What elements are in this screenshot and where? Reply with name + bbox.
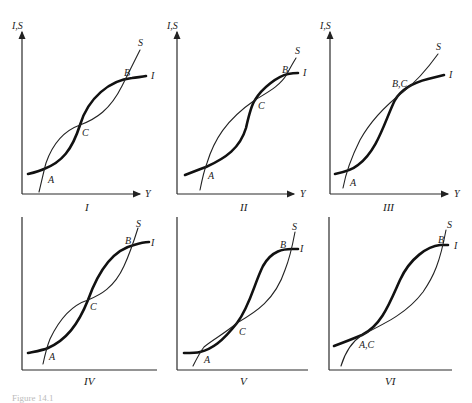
point-B: B (438, 235, 444, 245)
investment-curve-label: I (454, 241, 457, 251)
point-C: C (258, 101, 265, 111)
y-axis-label: I,S (320, 21, 331, 31)
saving-curve-label: S (447, 220, 452, 230)
investment-curve-label: I (151, 238, 154, 248)
investment-curve-label: I (449, 70, 452, 80)
investment-curve-label: I (303, 68, 306, 78)
point-C: C (239, 327, 246, 337)
saving-curve-label: S (295, 46, 300, 56)
investment-curve-label: I (300, 244, 303, 254)
point-B: B (124, 68, 130, 78)
point-A: A (48, 175, 54, 185)
panel-label-III: III (383, 202, 394, 213)
x-axis-label: Y (454, 189, 460, 199)
panel-IV (22, 217, 157, 370)
point-BC: B,C (392, 79, 407, 89)
panel-label-I: I (85, 202, 89, 213)
investment-curve-label: I (151, 71, 154, 81)
y-axis-label: I,S (12, 21, 23, 31)
point-AC: A,C (359, 340, 374, 350)
point-C: C (90, 302, 97, 312)
investment-curve (184, 249, 298, 353)
point-A: A (350, 178, 356, 188)
investment-curve (334, 245, 448, 346)
x-axis-label: Y (145, 189, 151, 199)
panel-VI (329, 217, 452, 370)
point-A: A (204, 355, 210, 365)
point-A: A (208, 171, 214, 181)
point-B: B (282, 65, 288, 75)
saving-curve (343, 54, 438, 188)
investment-curve (28, 242, 149, 353)
saving-curve (341, 230, 446, 366)
point-B: B (280, 240, 286, 250)
panel-III (330, 32, 448, 194)
panel-label-IV: IV (84, 376, 94, 387)
panel-label-V: V (240, 376, 247, 387)
point-C: C (82, 128, 89, 138)
panel-II (177, 32, 298, 194)
panel-label-VI: VI (385, 376, 395, 387)
x-axis-label: Y (300, 189, 306, 199)
saving-curve-label: S (138, 38, 143, 48)
y-axis-label: I,S (167, 21, 178, 31)
saving-curve-label: S (292, 222, 297, 232)
point-B: B (125, 236, 131, 246)
panel-label-II: II (240, 202, 247, 213)
saving-curve-label: S (136, 219, 141, 229)
panel-I (22, 32, 146, 194)
saving-curve-label: S (436, 42, 441, 52)
investment-curve (185, 73, 298, 175)
panel-V (177, 217, 308, 370)
investment-curve (28, 76, 146, 174)
point-A: A (49, 352, 55, 362)
figure-caption: Figure 14.1 (12, 393, 54, 403)
